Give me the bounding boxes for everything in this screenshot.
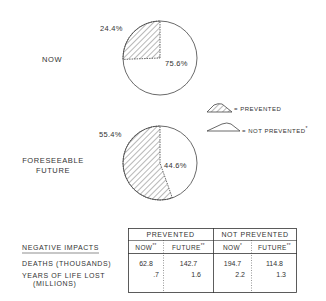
cell-deaths-future-prevented: 142.7 [164,260,213,267]
pie-now [123,21,197,95]
cell-years-now-not-prevented: 2.2 [214,271,245,278]
row-label-years: YEARS OF LIFE LOST [22,272,105,279]
col-mark: ** [152,243,156,248]
pie-future-title-line1: FORESEEABLE [20,156,86,166]
legend-not-prevented-text: = NOT PREVENTED [242,128,306,134]
col-label: NOW [223,244,240,251]
pie-now-prevented-pct: 24.4% [100,24,123,33]
table-col-now-not-prevented: NOW* [214,243,251,251]
row-label-years-sub: (MILLIONS) [33,280,76,287]
col-label: FUTURE [172,244,201,251]
pie-now-not-prevented-pct: 75.6% [165,59,188,68]
cell-deaths-now-not-prevented: 194.7 [214,260,251,267]
legend-not-prevented-swatch [207,123,240,131]
table-col-now-prevented: NOW** [129,243,163,251]
cell-years-future-prevented: 1.6 [164,271,201,278]
table-col-future-prevented: FUTURE** [164,243,213,251]
table-heading: NEGATIVE IMPACTS [22,244,99,251]
pie-future-title-line2: FUTURE [20,166,86,176]
table-group-prevented: PREVENTED [128,231,213,238]
pie-now-title: NOW [42,55,62,64]
cell-deaths-now-prevented: 62.8 [129,260,163,267]
legend-asterisk: * [306,125,308,131]
col-label: NOW [135,244,152,251]
col-mark: ** [287,243,291,248]
table-col-future-not-prevented: FUTURE** [252,243,297,251]
row-label-deaths: DEATHS (THOUSANDS) [22,260,111,267]
legend-not-prevented-label: = NOT PREVENTED* [242,125,308,134]
col-mark: ** [201,243,205,248]
pie-future-not-prevented-pct: 44.6% [164,161,187,170]
pie-future-title: FORESEEABLE FUTURE [20,156,86,176]
legend-prevented-swatch [207,104,232,112]
col-mark: * [240,243,242,248]
pie-charts-graphic [0,0,326,301]
cell-years-now-prevented: .7 [129,271,159,278]
cell-deaths-future-not-prevented: 114.8 [252,260,297,267]
pie-future-prevented-pct: 55.4% [99,130,122,139]
col-label: FUTURE [258,244,287,251]
cell-years-future-not-prevented: 1.3 [252,271,286,278]
table-group-not-prevented: NOT PREVENTED [213,231,297,238]
legend-prevented-label: = PREVENTED [234,106,281,112]
